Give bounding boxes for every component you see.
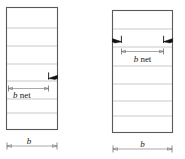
left-gross-width-dimension <box>7 143 57 150</box>
left-net-width-label-suffix: net <box>18 90 32 100</box>
right-panel: b net b <box>112 11 172 153</box>
right-net-width-label-suffix: net <box>138 54 152 64</box>
left-panel: b net b <box>7 8 58 150</box>
net-width-figure: b net b <box>0 0 185 159</box>
left-net-width-label: b net <box>13 90 31 100</box>
left-plate-outline <box>7 8 58 130</box>
left-gross-width-label: b <box>27 136 32 146</box>
right-net-width-label: b net <box>134 54 152 64</box>
figure-root: b net b <box>0 0 185 159</box>
right-gross-width-label: b <box>140 139 145 149</box>
